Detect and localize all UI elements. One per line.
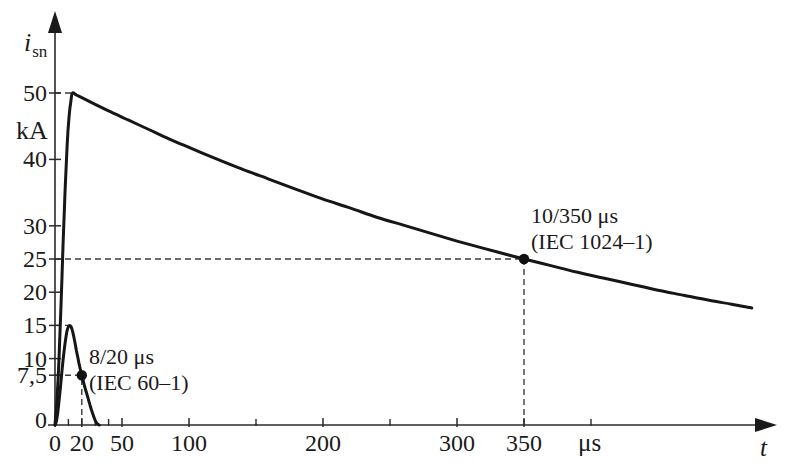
- x-tick-label: 100: [171, 430, 207, 456]
- x-tick-label: 0: [49, 430, 61, 456]
- y-axis-symbol-subscript: sn: [32, 42, 47, 61]
- annotation-8-20: 8/20 μs (IEC 60–1): [89, 344, 189, 396]
- surge-current-chart: 0205010020030035007,510152025304050 isn …: [0, 0, 790, 470]
- x-tick-label: 200: [305, 430, 341, 456]
- x-axis-arrow-icon: [755, 418, 777, 432]
- y-tick-label: 25: [23, 246, 47, 272]
- y-axis-arrow-icon: [48, 11, 62, 33]
- y-axis-title: isn: [24, 28, 47, 62]
- annotation-8-20-line2: (IEC 60–1): [89, 370, 189, 396]
- y-tick-label: 30: [23, 213, 47, 239]
- annotation-10-350-line2: (IEC 1024–1): [531, 229, 653, 255]
- y-tick-label: 10: [23, 346, 47, 372]
- marker-dot: [77, 370, 87, 380]
- annotation-10-350-line1: 10/350 μs: [531, 203, 653, 229]
- y-tick-label: 0: [35, 407, 47, 433]
- marker-dot: [519, 254, 529, 264]
- x-tick-label: 300: [439, 430, 475, 456]
- y-axis-symbol: i: [24, 28, 31, 57]
- x-tick-label: 50: [110, 430, 134, 456]
- x-tick-label: 350: [506, 430, 542, 456]
- chart-canvas: 0205010020030035007,510152025304050: [0, 0, 790, 470]
- y-tick-label: 15: [23, 312, 47, 338]
- y-tick-label: 40: [23, 146, 47, 172]
- y-tick-label: 50: [23, 80, 47, 106]
- y-axis-unit: kA: [12, 116, 52, 146]
- annotation-8-20-line1: 8/20 μs: [89, 344, 189, 370]
- x-axis-symbol: t: [760, 434, 767, 462]
- annotation-10-350: 10/350 μs (IEC 1024–1): [531, 203, 653, 255]
- y-tick-label: 20: [23, 279, 47, 305]
- x-tick-label: 20: [70, 430, 94, 456]
- x-axis-unit: μs: [578, 429, 601, 457]
